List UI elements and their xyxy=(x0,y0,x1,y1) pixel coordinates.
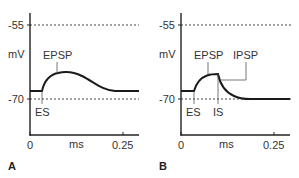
y-tick-label-minus70: -70 xyxy=(159,93,175,105)
y-axis-label: mV xyxy=(8,48,25,60)
x-tick-label-0: 0 xyxy=(27,139,33,151)
y-tick-label-minus70: -70 xyxy=(8,93,24,105)
figure: -55 mV -70 EPSP ES 0 ms 0.25 A -55 mV -7… xyxy=(0,0,299,178)
ipsp-leader xyxy=(221,62,246,80)
y-tick-label-minus55: -55 xyxy=(8,19,24,31)
ipsp-label: IPSP xyxy=(233,49,258,61)
is-label: IS xyxy=(213,106,223,118)
x-tick-label-025: 0.25 xyxy=(112,139,133,151)
panel-letter-b: B xyxy=(159,160,167,172)
es-label: ES xyxy=(35,106,50,118)
epsp-label: EPSP xyxy=(43,49,72,61)
x-axis-label: ms xyxy=(69,138,84,150)
epsp-ipsp-trace xyxy=(181,74,290,99)
x-tick-label-0: 0 xyxy=(178,139,184,151)
es-label: ES xyxy=(186,106,201,118)
y-axis-label: mV xyxy=(159,48,176,60)
panel-a: -55 mV -70 EPSP ES 0 ms 0.25 A xyxy=(8,13,139,172)
x-tick-label-025: 0.25 xyxy=(263,139,284,151)
panel-b: -55 mV -70 EPSP IPSP ES IS 0 ms 0.25 B xyxy=(159,13,291,172)
epsp-label: EPSP xyxy=(194,49,223,61)
panel-letter-a: A xyxy=(8,160,16,172)
x-axis-label: ms xyxy=(219,138,234,150)
y-tick-label-minus55: -55 xyxy=(159,19,175,31)
epsp-trace xyxy=(30,72,139,91)
